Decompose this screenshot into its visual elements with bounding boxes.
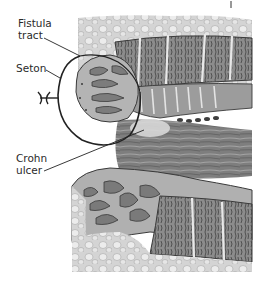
anatomical-illustration: [0, 0, 263, 282]
label-seton: Seton: [16, 62, 46, 74]
label-fistula-tract: Fistula tract: [18, 17, 52, 41]
seton-leader-line: [46, 70, 60, 78]
knot-icon: [38, 92, 58, 104]
lower-muscle-wall: [150, 196, 252, 262]
label-crohn-ulcer: Crohn ulcer: [16, 152, 47, 176]
